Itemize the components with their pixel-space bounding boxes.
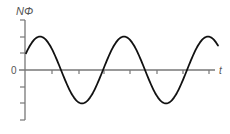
x-axis-label: t [219, 65, 223, 76]
y-axis-label: NΦ [16, 5, 33, 17]
waveform-chart: NΦ 0 t [0, 0, 230, 134]
origin-label: 0 [11, 65, 17, 76]
